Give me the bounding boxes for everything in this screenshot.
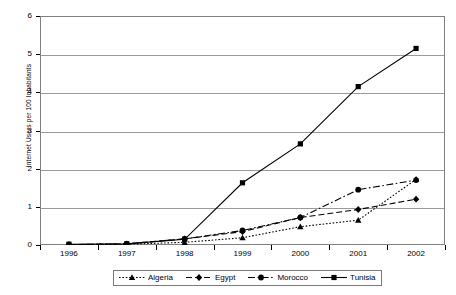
x-tick-mark xyxy=(445,245,446,250)
data-point-circle xyxy=(258,275,264,281)
data-point-square xyxy=(124,241,129,245)
data-point-square xyxy=(240,180,245,185)
data-point-circle xyxy=(240,228,246,234)
legend-marker-square-icon xyxy=(321,273,347,282)
data-point-square xyxy=(356,84,361,89)
y-tick-label: 6 xyxy=(2,12,32,20)
legend-item-morocco[interactable]: Morocco xyxy=(248,273,308,282)
data-point-square xyxy=(298,141,303,146)
data-point-circle xyxy=(297,215,303,221)
x-tick-mark xyxy=(156,245,157,250)
x-tick-label: 1999 xyxy=(213,250,273,258)
data-point-diamond xyxy=(413,196,419,203)
data-point-square xyxy=(66,242,71,245)
legend-label: Morocco xyxy=(277,273,308,282)
data-point-square xyxy=(331,275,336,280)
x-tick-label: 2001 xyxy=(328,250,388,258)
y-tick-label: 0 xyxy=(2,241,32,249)
data-point-square xyxy=(182,237,187,242)
x-tick-label: 2000 xyxy=(270,250,330,258)
legend-marker-triangle-icon xyxy=(119,273,145,282)
chart-container: Internet Users per 100 Inhabitants 01234… xyxy=(0,0,456,295)
x-tick-mark xyxy=(214,245,215,250)
legend-marker-circle-icon xyxy=(248,273,274,282)
data-point-square xyxy=(413,46,418,51)
x-tick-mark xyxy=(98,245,99,250)
x-tick-label: 1996 xyxy=(39,250,99,258)
x-tick-label: 1998 xyxy=(155,250,215,258)
data-point-diamond xyxy=(196,274,202,281)
series-line xyxy=(69,48,416,244)
chart-legend: AlgeriaEgyptMoroccoTunisia xyxy=(113,270,382,286)
data-point-circle xyxy=(413,177,419,183)
y-tick-label: 1 xyxy=(2,203,32,211)
x-tick-mark xyxy=(271,245,272,250)
legend-label: Egypt xyxy=(215,273,235,282)
y-tick-label: 5 xyxy=(2,50,32,58)
data-point-triangle xyxy=(355,217,361,223)
y-axis-title: Internet Users per 100 Inhabitants xyxy=(25,16,32,216)
x-tick-label: 2002 xyxy=(386,250,446,258)
x-tick-label: 1997 xyxy=(97,250,157,258)
y-tick-label: 4 xyxy=(2,88,32,96)
legend-marker-diamond-icon xyxy=(186,273,212,282)
data-point-diamond xyxy=(355,206,361,213)
x-tick-mark xyxy=(329,245,330,250)
series-layer xyxy=(40,16,445,245)
legend-label: Tunisia xyxy=(350,273,376,282)
y-tick-label: 2 xyxy=(2,165,32,173)
legend-item-tunisia[interactable]: Tunisia xyxy=(321,273,376,282)
legend-label: Algeria xyxy=(148,273,173,282)
x-tick-mark xyxy=(40,245,41,250)
legend-item-egypt[interactable]: Egypt xyxy=(186,273,235,282)
data-point-circle xyxy=(355,187,361,193)
legend-item-algeria[interactable]: Algeria xyxy=(119,273,173,282)
y-tick-label: 3 xyxy=(2,127,32,135)
x-tick-mark xyxy=(387,245,388,250)
